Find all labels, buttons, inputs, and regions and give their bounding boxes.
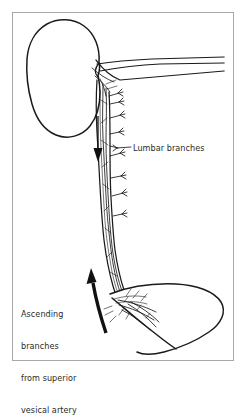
kidney-outline xyxy=(27,20,100,137)
label-ascending-branches: Ascending branches from superior vesical… xyxy=(21,288,77,419)
label-ascending-line-4: vesical artery xyxy=(21,405,77,416)
label-ascending-line-1: Ascending xyxy=(21,309,77,320)
label-ascending-line-2: branches xyxy=(21,341,77,352)
label-lumbar-branches: Lumbar branches xyxy=(133,143,204,154)
kidney-group xyxy=(27,20,100,137)
label-ascending-line-3: from superior xyxy=(21,373,77,384)
